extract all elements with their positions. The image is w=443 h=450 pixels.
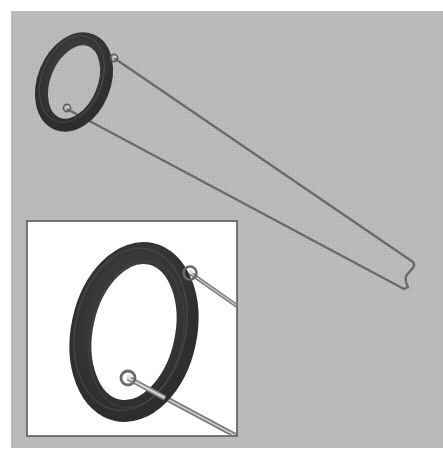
inset-magnified-view — [27, 221, 240, 438]
illustration — [0, 0, 443, 450]
figure-canvas: Illustration of a rubber O-ring held by … — [0, 0, 443, 450]
